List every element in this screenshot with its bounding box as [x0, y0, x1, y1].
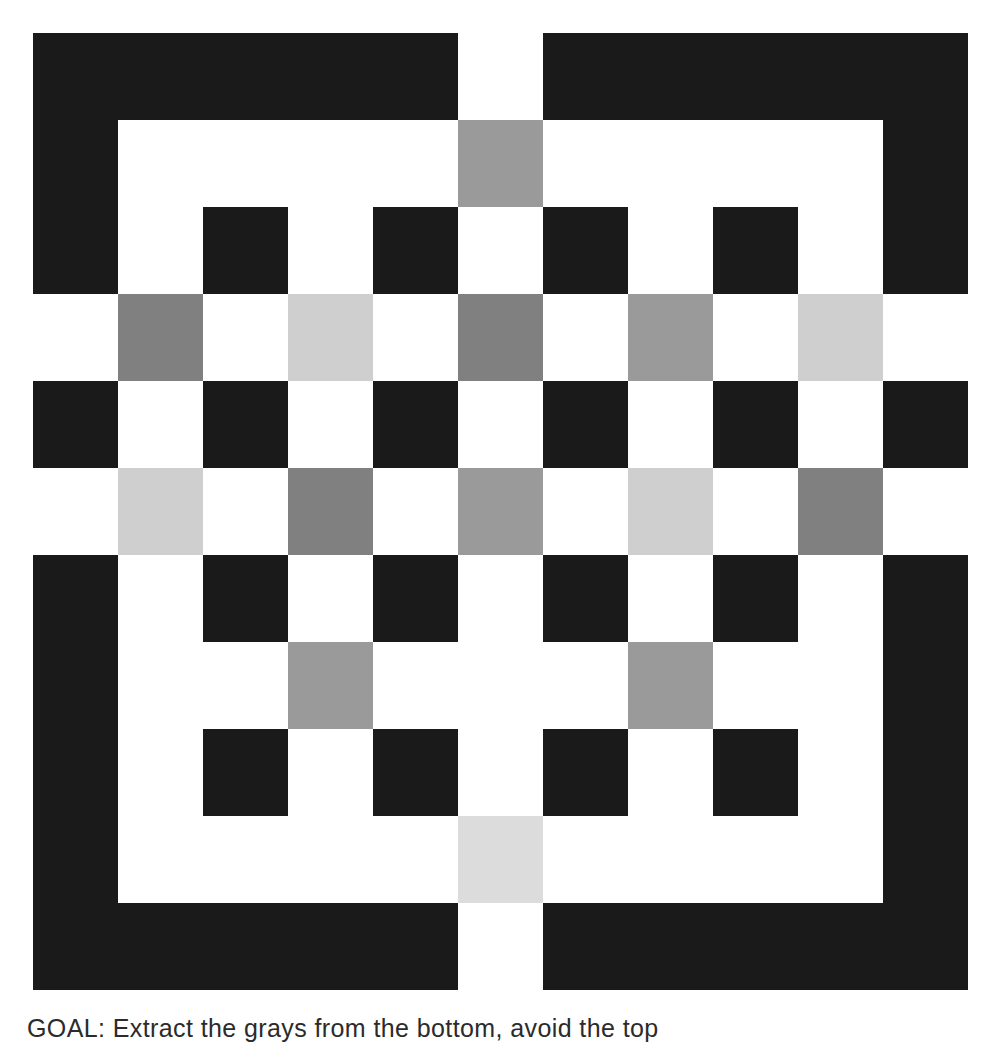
grid-cell[interactable]	[458, 816, 543, 903]
grid-cell[interactable]	[203, 729, 288, 816]
grid-cell[interactable]	[713, 120, 798, 207]
grid-cell[interactable]	[288, 642, 373, 729]
grid-cell[interactable]	[373, 555, 458, 642]
grid-cell[interactable]	[713, 468, 798, 555]
grid-cell[interactable]	[883, 816, 968, 903]
grid-cell[interactable]	[288, 294, 373, 381]
grid-cell[interactable]	[883, 207, 968, 294]
grid-cell[interactable]	[373, 294, 458, 381]
grid-cell[interactable]	[203, 555, 288, 642]
grid-cell[interactable]	[118, 555, 203, 642]
grid-cell[interactable]	[458, 207, 543, 294]
grid-cell[interactable]	[798, 555, 883, 642]
grid-cell[interactable]	[798, 207, 883, 294]
grid-cell[interactable]	[118, 816, 203, 903]
grid-cell[interactable]	[33, 468, 118, 555]
grid-cell[interactable]	[203, 381, 288, 468]
grid-cell[interactable]	[713, 294, 798, 381]
grid-cell[interactable]	[373, 120, 458, 207]
grid-cell[interactable]	[543, 642, 628, 729]
grid-cell[interactable]	[628, 729, 713, 816]
grid-cell[interactable]	[883, 729, 968, 816]
grid-cell[interactable]	[118, 381, 203, 468]
grid-cell[interactable]	[543, 294, 628, 381]
grid-cell[interactable]	[33, 642, 118, 729]
grid-cell[interactable]	[458, 294, 543, 381]
grid-cell[interactable]	[713, 33, 798, 120]
grid-cell[interactable]	[288, 816, 373, 903]
grid-cell[interactable]	[373, 729, 458, 816]
grid-cell[interactable]	[373, 33, 458, 120]
grid-cell[interactable]	[373, 816, 458, 903]
grid-cell[interactable]	[543, 468, 628, 555]
grid-cell[interactable]	[628, 555, 713, 642]
grid-cell[interactable]	[458, 903, 543, 990]
grid-cell[interactable]	[118, 468, 203, 555]
grid-cell[interactable]	[33, 903, 118, 990]
grid-cell[interactable]	[628, 207, 713, 294]
grid-cell[interactable]	[713, 381, 798, 468]
grid-cell[interactable]	[543, 903, 628, 990]
grid-cell[interactable]	[798, 903, 883, 990]
grid-cell[interactable]	[883, 120, 968, 207]
grid-cell[interactable]	[458, 33, 543, 120]
grid-cell[interactable]	[628, 468, 713, 555]
grid-cell[interactable]	[713, 207, 798, 294]
grid-cell[interactable]	[543, 120, 628, 207]
grid-cell[interactable]	[883, 903, 968, 990]
grid-cell[interactable]	[288, 33, 373, 120]
grid-cell[interactable]	[798, 381, 883, 468]
grid-cell[interactable]	[798, 33, 883, 120]
grid-cell[interactable]	[798, 729, 883, 816]
grid-cell[interactable]	[543, 555, 628, 642]
grid-cell[interactable]	[458, 555, 543, 642]
grid-cell[interactable]	[713, 729, 798, 816]
grid-cell[interactable]	[458, 381, 543, 468]
grid-cell[interactable]	[203, 33, 288, 120]
grid-cell[interactable]	[203, 207, 288, 294]
grid-cell[interactable]	[203, 294, 288, 381]
grid-cell[interactable]	[543, 33, 628, 120]
grid-cell[interactable]	[203, 816, 288, 903]
grid-cell[interactable]	[288, 207, 373, 294]
grid-cell[interactable]	[118, 294, 203, 381]
grid-cell[interactable]	[543, 381, 628, 468]
grid-cell[interactable]	[628, 642, 713, 729]
grid-cell[interactable]	[458, 729, 543, 816]
grid-cell[interactable]	[628, 381, 713, 468]
grid-cell[interactable]	[713, 816, 798, 903]
grid-cell[interactable]	[288, 468, 373, 555]
grid-cell[interactable]	[118, 729, 203, 816]
grid-cell[interactable]	[883, 294, 968, 381]
grid-cell[interactable]	[713, 555, 798, 642]
grid-cell[interactable]	[288, 903, 373, 990]
grid-cell[interactable]	[373, 207, 458, 294]
grid-cell[interactable]	[33, 33, 118, 120]
grid-cell[interactable]	[458, 468, 543, 555]
grid-cell[interactable]	[33, 555, 118, 642]
grid-cell[interactable]	[628, 294, 713, 381]
grid-cell[interactable]	[798, 816, 883, 903]
grid-cell[interactable]	[33, 381, 118, 468]
grid-cell[interactable]	[203, 903, 288, 990]
grid-cell[interactable]	[288, 555, 373, 642]
grid-cell[interactable]	[373, 903, 458, 990]
grid-cell[interactable]	[33, 816, 118, 903]
grid-cell[interactable]	[373, 468, 458, 555]
grid-cell[interactable]	[798, 468, 883, 555]
grid-cell[interactable]	[628, 816, 713, 903]
grid-cell[interactable]	[33, 120, 118, 207]
grid-cell[interactable]	[288, 381, 373, 468]
grid-cell[interactable]	[288, 729, 373, 816]
grid-cell[interactable]	[798, 294, 883, 381]
grid-cell[interactable]	[33, 294, 118, 381]
grid-cell[interactable]	[203, 468, 288, 555]
grid-cell[interactable]	[628, 120, 713, 207]
grid-cell[interactable]	[373, 642, 458, 729]
grid-cell[interactable]	[713, 903, 798, 990]
grid-cell[interactable]	[288, 120, 373, 207]
grid-cell[interactable]	[118, 33, 203, 120]
grid-cell[interactable]	[798, 120, 883, 207]
grid-cell[interactable]	[883, 33, 968, 120]
grid-cell[interactable]	[713, 642, 798, 729]
